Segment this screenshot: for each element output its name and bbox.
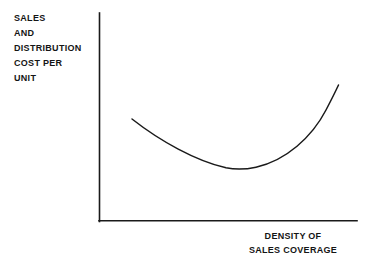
- figure-canvas: SALES AND DISTRIBUTION COST PER UNIT DEN…: [0, 0, 366, 267]
- axis-lines: [99, 13, 357, 222]
- x-axis-title-line-1: DENSITY OF: [222, 229, 364, 243]
- x-axis-title: DENSITY OF SALES COVERAGE: [222, 229, 364, 257]
- cost-curve-line: [132, 85, 339, 169]
- cost-curve-group: [132, 85, 339, 169]
- x-axis-title-line-2: SALES COVERAGE: [222, 243, 364, 257]
- plot-area: [0, 0, 366, 267]
